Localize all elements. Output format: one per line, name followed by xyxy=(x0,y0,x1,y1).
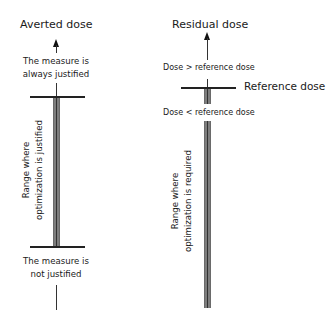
axis-line xyxy=(56,83,57,97)
always-justified-label: The measure is always justified xyxy=(16,55,96,81)
residual-dose-title: Residual dose xyxy=(172,18,248,31)
label-line: optimization is justified xyxy=(33,110,46,230)
required-range-label: Range where optimization is required xyxy=(169,136,197,266)
label-line: Range where xyxy=(169,136,182,266)
label-line: always justified xyxy=(16,68,96,81)
above-reference-label: Dose > reference dose xyxy=(163,63,255,72)
label-line: The measure is xyxy=(16,255,96,268)
below-reference-label: Dose < reference dose xyxy=(163,108,255,117)
justified-range-label: Range where optimization is justified xyxy=(20,110,48,230)
axis-line xyxy=(56,285,57,310)
axis-line xyxy=(56,45,57,53)
label-line: The measure is xyxy=(16,55,96,68)
residual-bar-upper xyxy=(204,89,211,104)
not-justified-label: The measure is not justified xyxy=(16,255,96,281)
averted-dose-title: Averted dose xyxy=(20,18,92,31)
lower-threshold-line xyxy=(30,246,85,248)
required-range-bar xyxy=(204,121,211,308)
axis-line xyxy=(207,38,208,60)
justified-range-bar xyxy=(53,98,60,246)
reference-dose-label: Reference dose xyxy=(244,80,325,92)
label-line: not justified xyxy=(16,268,96,281)
label-line: optimization is required xyxy=(182,136,195,266)
label-line: Range where xyxy=(20,110,33,230)
